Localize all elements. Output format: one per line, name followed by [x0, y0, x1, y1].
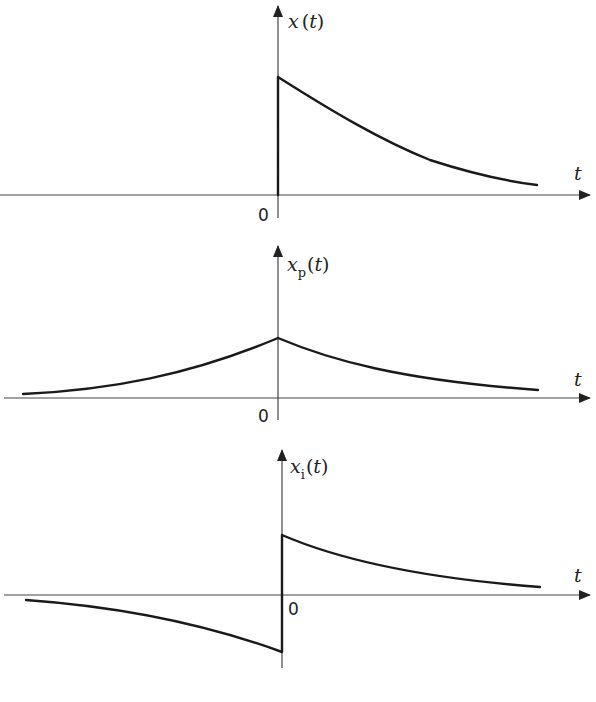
- func-label-xp: xp(t): [287, 253, 330, 280]
- panel-x: x(t) t 0: [0, 6, 590, 225]
- time-label: t: [574, 162, 582, 184]
- origin-label: 0: [258, 406, 269, 426]
- signal-curve-xp: [23, 338, 538, 394]
- origin-label: 0: [258, 205, 269, 225]
- signal-curve-x: [278, 77, 537, 195]
- func-label-x: x(t): [288, 10, 324, 32]
- signal-decomposition-diagram: x(t) t 0 xp(t) t 0 xi(t) t 0: [0, 0, 596, 702]
- panel-xi: xi(t) t 0: [4, 450, 590, 668]
- panel-xp: xp(t) t 0: [4, 246, 590, 426]
- time-label: t: [574, 368, 582, 390]
- origin-label: 0: [288, 599, 299, 619]
- signal-curve-xi: [26, 535, 540, 652]
- func-label-xi: xi(t): [290, 455, 328, 482]
- time-label: t: [574, 564, 582, 586]
